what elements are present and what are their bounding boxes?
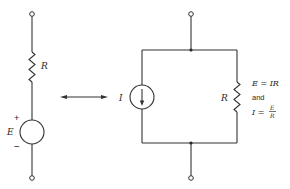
top-terminal-icon — [189, 12, 194, 17]
equation-connector: and — [252, 93, 265, 102]
bottom-terminal-icon — [30, 176, 35, 181]
equation-i-lhs: I = — [251, 108, 264, 117]
resistor-label: R — [220, 93, 228, 103]
top-terminal-icon — [30, 12, 35, 17]
plus-sign: + — [14, 113, 19, 123]
voltage-source-icon — [20, 120, 44, 144]
circuit-diagram: R + E − I R — [0, 0, 290, 189]
current-label: I — [118, 93, 123, 103]
double-arrow-icon — [60, 95, 108, 99]
minus-sign: − — [14, 141, 20, 152]
resistor-label: R — [40, 61, 48, 71]
bottom-terminal-icon — [189, 176, 194, 181]
right-circuit: I R — [118, 12, 240, 181]
left-circuit: R + E − — [6, 12, 48, 181]
resistor-icon — [234, 82, 240, 112]
resistor-icon — [29, 52, 35, 82]
source-label: E — [6, 127, 14, 137]
equations: E = IR and I = E R — [251, 79, 279, 119]
fraction-numerator: E — [269, 104, 275, 111]
fraction-denominator: R — [269, 112, 275, 119]
equation-e-equals-ir: E = IR — [251, 79, 279, 88]
